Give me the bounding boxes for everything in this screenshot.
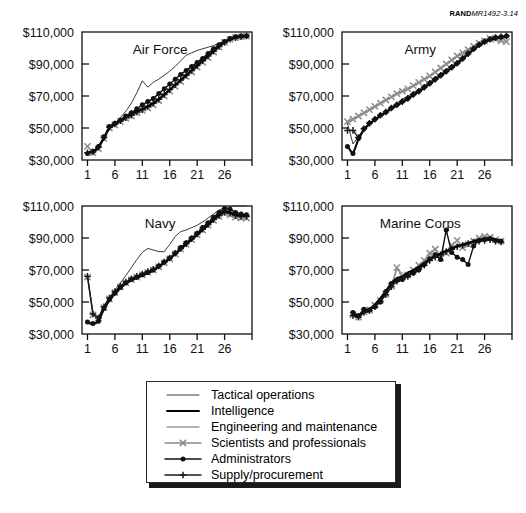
- series-marker: [134, 106, 139, 111]
- legend-label-engineering-and-maintenance: Engineering and maintenance: [211, 419, 377, 435]
- x-axis-tick-label: 6: [111, 168, 118, 182]
- series-marker: [367, 121, 372, 126]
- legend-label-tactical-operations: Tactical operations: [211, 387, 315, 403]
- series-marker: [455, 255, 460, 260]
- series-marker: [145, 270, 150, 275]
- y-axis-tick-label: $50,000: [29, 122, 74, 136]
- series-marker: [488, 236, 493, 241]
- series-marker: [367, 308, 372, 313]
- legend-item-engineering-and-maintenance: Engineering and maintenance: [161, 419, 377, 435]
- series-marker: [427, 256, 432, 261]
- series-marker: [350, 151, 355, 156]
- series-marker: [471, 244, 476, 249]
- series-marker: [156, 91, 161, 96]
- series-marker: [460, 257, 465, 262]
- series-marker: [394, 102, 399, 107]
- series-marker: [90, 321, 95, 326]
- series-marker: [206, 220, 211, 225]
- panel-plot: $30,000$50,000$70,000$90,000$110,0001611…: [6, 22, 258, 190]
- series-marker: [101, 306, 106, 311]
- y-axis-tick-label: $30,000: [289, 154, 334, 168]
- series-marker: [432, 246, 438, 252]
- series-marker: [345, 144, 350, 149]
- x-axis-tick-label: 16: [423, 342, 437, 356]
- legend-item-scientists-and-professionals: Scientists and professionals: [161, 435, 366, 451]
- series-marker: [173, 251, 178, 256]
- series-marker: [383, 289, 388, 294]
- legend-swatch-engineering-and-maintenance: [161, 419, 205, 435]
- series-marker: [90, 149, 95, 154]
- x-axis-tick-label: 1: [344, 342, 351, 356]
- source-tag: RANDMR1492-3.14: [449, 9, 518, 18]
- x-axis-tick-label: 16: [423, 168, 437, 182]
- y-axis-tick-label: $110,000: [283, 26, 334, 40]
- series-marker: [107, 124, 112, 129]
- series-marker: [228, 207, 233, 212]
- x-axis-tick-label: 26: [218, 342, 232, 356]
- series-marker: [167, 82, 172, 87]
- source-tag-italic: MR1492-3.14: [471, 9, 518, 18]
- series-marker: [466, 262, 471, 267]
- y-axis-tick-label: $110,000: [23, 200, 74, 214]
- source-tag-bold: RAND: [449, 9, 471, 18]
- series-marker: [477, 238, 482, 243]
- y-axis-tick-label: $110,000: [283, 200, 334, 214]
- series-marker: [372, 304, 377, 309]
- series-marker: [460, 56, 465, 61]
- series-marker: [178, 72, 183, 77]
- series-marker: [416, 89, 421, 94]
- series-group: [350, 228, 505, 321]
- x-axis-tick-label: 21: [450, 342, 464, 356]
- series-marker: [162, 260, 167, 265]
- series-marker: [167, 256, 172, 261]
- series-marker: [217, 210, 222, 215]
- series-marker: [449, 250, 454, 255]
- panel-title: Army: [404, 42, 436, 57]
- series-marker: [233, 210, 238, 215]
- series-marker: [405, 273, 410, 278]
- series-marker: [118, 118, 123, 123]
- series-marker: [488, 37, 493, 42]
- series-marker: [444, 69, 449, 74]
- series-marker: [156, 264, 161, 269]
- series-marker: [433, 252, 438, 257]
- panel-title: Marine Corps: [380, 216, 461, 231]
- series-marker: [438, 73, 443, 78]
- series-marker: [184, 68, 189, 73]
- series-marker: [85, 320, 90, 325]
- series-marker: [394, 278, 399, 283]
- series-marker: [195, 60, 200, 65]
- series-marker: [173, 77, 178, 82]
- series-marker: [206, 51, 211, 56]
- series-marker: [477, 42, 482, 47]
- series-marker: [222, 39, 227, 44]
- x-axis-tick-label: 26: [478, 168, 492, 182]
- series-marker: [466, 51, 471, 56]
- series-marker: [200, 225, 205, 230]
- x-axis-tick-label: 6: [111, 342, 118, 356]
- series-marker: [217, 42, 222, 47]
- series-marker: [350, 310, 355, 315]
- x-axis-tick-label: 26: [218, 168, 232, 182]
- series-marker: [493, 238, 498, 243]
- x-axis-tick-label: 11: [396, 168, 409, 182]
- series-marker: [356, 136, 361, 141]
- series-marker: [471, 46, 476, 51]
- legend-item-intelligence: Intelligence: [161, 403, 274, 419]
- y-axis-tick-label: $30,000: [29, 154, 74, 168]
- x-axis-tick-label: 26: [478, 342, 492, 356]
- y-axis-tick-label: $70,000: [289, 90, 334, 104]
- series-marker: [454, 237, 460, 243]
- series-marker: [140, 272, 145, 277]
- series-marker: [361, 126, 366, 131]
- series-marker: [400, 277, 405, 282]
- series-marker: [482, 39, 487, 44]
- series-marker: [228, 36, 233, 41]
- y-axis-tick-label: $50,000: [289, 296, 334, 310]
- panel-army: $30,000$50,000$70,000$90,000$110,0001611…: [266, 22, 518, 190]
- legend-label-supply-procurement: Supply/procurement: [211, 467, 323, 483]
- series-marker: [112, 291, 117, 296]
- y-axis-tick-label: $110,000: [23, 26, 74, 40]
- series-marker: [427, 81, 432, 86]
- x-axis-tick-label: 6: [371, 342, 378, 356]
